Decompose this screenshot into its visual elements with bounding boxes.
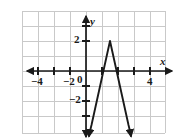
graph-figure: −4 −2 0 4 2 −2 y x xyxy=(0,0,183,140)
x-axis-name-label: x xyxy=(160,56,166,67)
x-tick-label-minus4: −4 xyxy=(31,76,43,87)
origin-label-zero: 0 xyxy=(77,74,83,85)
y-tick-label-2: 2 xyxy=(74,34,80,45)
y-axis-name-label: y xyxy=(90,16,95,27)
x-tick-label-minus2: −2 xyxy=(63,76,75,87)
x-tick-label-4: 4 xyxy=(147,76,153,87)
y-tick-label-minus2: −2 xyxy=(69,94,81,105)
